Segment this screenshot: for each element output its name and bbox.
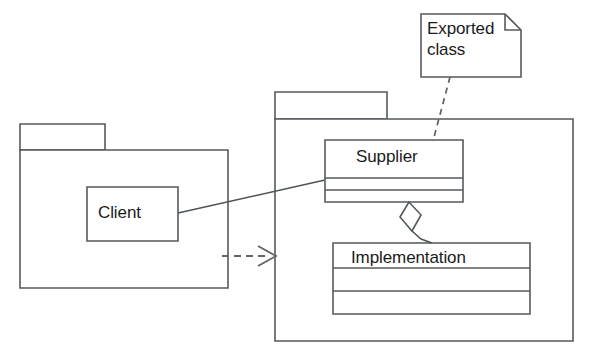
- cropped-header-text: [95, 0, 395, 6]
- implementation-class-label: Implementation: [351, 248, 466, 267]
- supplier-package-tab: [275, 92, 387, 119]
- package-dependency-connector: [222, 246, 276, 266]
- client-package-tab: [20, 124, 105, 150]
- client-class-label: Client: [98, 203, 141, 222]
- uml-package-diagram: Client Supplier Implementation Exported …: [0, 0, 589, 357]
- diagram-canvas: [0, 0, 589, 357]
- supplier-class-label: Supplier: [356, 147, 418, 166]
- exported-class-note-label: Exported class: [427, 18, 494, 60]
